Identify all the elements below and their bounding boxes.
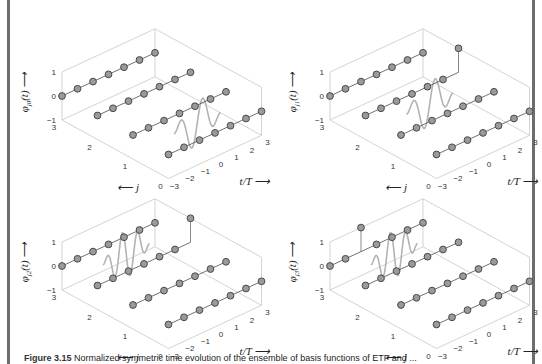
- sample-marker: [460, 103, 467, 110]
- sample-marker: [464, 137, 471, 144]
- sample-marker: [511, 115, 518, 122]
- sample-marker: [90, 248, 97, 255]
- sample-marker: [358, 224, 365, 231]
- sample-marker: [156, 253, 163, 260]
- phi-axis-label: φj0(t) ⟶: [18, 71, 33, 113]
- phi-axis-label: φj1(t) ⟶: [286, 71, 301, 113]
- sample-marker: [130, 302, 137, 309]
- plot-panel-top-right: 10−13210−3−2−10123⟵ jt/T ⟶φj1(t) ⟶: [280, 2, 542, 172]
- tick-label: 0: [219, 160, 224, 169]
- sample-marker: [449, 144, 456, 151]
- sample-marker: [480, 300, 487, 307]
- sample-marker: [327, 263, 334, 270]
- sample-marker: [373, 71, 380, 78]
- sample-marker: [110, 275, 117, 282]
- sample-marker: [455, 45, 462, 52]
- tick-label: 1: [234, 153, 239, 162]
- tick-label: 3: [52, 123, 57, 132]
- tick-label: 0: [52, 262, 57, 271]
- sample-marker: [526, 278, 533, 285]
- sample-marker: [192, 103, 199, 110]
- tick-label: 2: [518, 146, 523, 155]
- sample-marker: [223, 88, 230, 95]
- sample-marker: [378, 275, 385, 282]
- sample-marker: [460, 273, 467, 280]
- tick-label: 0: [487, 160, 492, 169]
- sample-marker: [161, 287, 168, 294]
- sample-marker: [389, 64, 396, 71]
- tick-label: 1: [52, 68, 57, 77]
- plot-panel-bottom-left: 10−13210−3−2−10123⟵ jt/T ⟶φj2(t) ⟶: [12, 172, 277, 342]
- tick-label: 1: [320, 238, 325, 247]
- sample-marker: [393, 268, 400, 275]
- sample-marker: [404, 227, 411, 234]
- sample-marker: [475, 96, 482, 103]
- sample-marker: [373, 241, 380, 248]
- sample-marker: [156, 83, 163, 90]
- tick-label: 1: [391, 162, 396, 171]
- sample-marker: [161, 117, 168, 124]
- sample-marker: [176, 280, 183, 287]
- sample-marker: [327, 93, 334, 100]
- plot-canvas: 10−13210−3−2−10123⟵ jt/T ⟶φj2(t) ⟶: [12, 172, 277, 342]
- tick-label: 0: [487, 330, 492, 339]
- tick-label: 0: [219, 330, 224, 339]
- tick-label: 2: [355, 143, 360, 152]
- tick-label: 3: [52, 293, 57, 302]
- tick-label: 3: [533, 138, 538, 147]
- sample-marker: [74, 255, 81, 262]
- sample-marker: [258, 108, 265, 115]
- sample-marker: [455, 239, 462, 246]
- sample-marker: [152, 49, 159, 56]
- phi-axis-label: φj3(t) ⟶: [286, 241, 301, 283]
- sample-marker: [433, 151, 440, 158]
- phi-axis-label: φj2(t) ⟶: [18, 241, 33, 283]
- tick-label: 1: [234, 323, 239, 332]
- sample-marker: [94, 112, 101, 119]
- sample-marker: [362, 112, 369, 119]
- sample-marker: [362, 282, 369, 289]
- sample-marker: [212, 130, 219, 137]
- sample-marker: [59, 263, 66, 270]
- sample-marker: [342, 255, 349, 262]
- caption-text: Normalized symmetric time evolution of t…: [74, 353, 417, 363]
- left-frame-bar: [7, 0, 10, 364]
- sample-marker: [141, 91, 148, 98]
- plot-panel-top-left: 10−13210−3−2−10123⟵ jt/T ⟶φj0(t) ⟶: [12, 2, 277, 172]
- tick-label: 1: [391, 332, 396, 341]
- sample-marker: [196, 307, 203, 314]
- sample-marker: [59, 93, 66, 100]
- sample-marker: [444, 110, 451, 117]
- axes-box: [62, 29, 262, 179]
- sample-marker: [358, 78, 365, 85]
- sample-marker: [145, 124, 152, 131]
- sample-marker: [429, 117, 436, 124]
- caption-label: Figure 3.15: [24, 353, 72, 363]
- sample-marker: [449, 314, 456, 321]
- sample-marker: [243, 285, 250, 292]
- sample-marker: [243, 115, 250, 122]
- sample-marker: [409, 91, 416, 98]
- plot-canvas: 10−13210−3−2−10123⟵ jt/T ⟶φj0(t) ⟶: [12, 2, 277, 172]
- sample-marker: [74, 85, 81, 92]
- sample-marker: [440, 246, 447, 253]
- sample-marker: [207, 96, 214, 103]
- sample-marker: [121, 234, 128, 241]
- sample-marker: [110, 105, 117, 112]
- sample-marker: [172, 246, 179, 253]
- sample-marker: [420, 219, 427, 226]
- sample-marker: [398, 132, 405, 139]
- sample-marker: [125, 98, 132, 105]
- sample-marker: [398, 302, 405, 309]
- tick-label: 1: [123, 162, 128, 171]
- plot-canvas: 10−13210−3−2−10123⟵ jt/T ⟶φj3(t) ⟶: [280, 172, 542, 342]
- sample-marker: [223, 258, 230, 265]
- sample-marker: [424, 253, 431, 260]
- sample-marker: [165, 151, 172, 158]
- figure-caption: Figure 3.15 Normalized symmetric time ev…: [24, 352, 524, 364]
- sample-marker: [475, 266, 482, 273]
- sample-marker: [105, 241, 112, 248]
- tick-label: 0: [52, 92, 57, 101]
- tick-label: 2: [87, 143, 92, 152]
- sample-marker: [192, 273, 199, 280]
